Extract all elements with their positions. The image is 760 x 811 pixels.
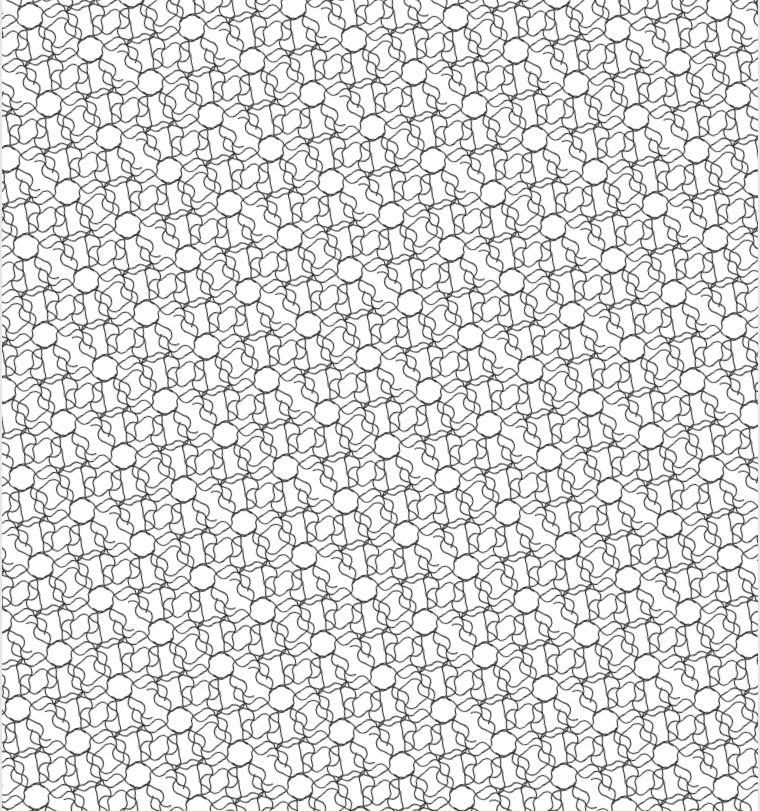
tessellation-pattern (0, 0, 760, 811)
